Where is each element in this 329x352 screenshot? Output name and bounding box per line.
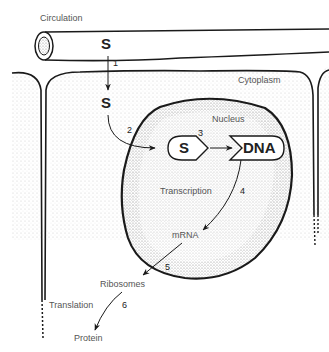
step-6: 6 — [122, 300, 127, 310]
label-transcription: Transcription — [160, 186, 212, 196]
label-dna: DNA — [243, 139, 276, 156]
arrow-6 — [95, 292, 122, 330]
blood-vessel — [35, 29, 329, 61]
step-1: 1 — [113, 58, 118, 68]
label-circulation: Circulation — [40, 13, 83, 23]
label-ribosomes: Ribosomes — [100, 279, 145, 289]
step-4: 4 — [240, 186, 245, 196]
label-translation: Translation — [49, 300, 93, 310]
label-nucleus: Nucleus — [212, 114, 245, 124]
label-s-circulation: S — [101, 35, 111, 52]
label-mrna: mRNA — [172, 230, 199, 240]
label-s-receptor: S — [179, 139, 189, 156]
step-3: 3 — [198, 128, 203, 138]
label-protein: Protein — [74, 333, 103, 343]
step-5: 5 — [165, 262, 170, 272]
step-2: 2 — [127, 125, 132, 135]
label-cytoplasm: Cytoplasm — [238, 75, 281, 85]
label-s-cytoplasm: S — [101, 94, 111, 111]
